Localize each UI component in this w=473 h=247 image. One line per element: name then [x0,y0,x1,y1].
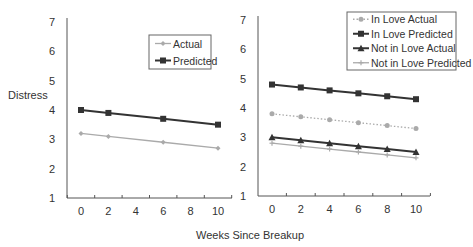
circle-marker [414,126,419,131]
square-marker [358,31,364,37]
series-in-love-actual [270,111,419,131]
x-tick-label: 8 [384,203,390,215]
legend-label: In Love Actual [371,13,437,25]
square-marker [355,90,361,96]
series-predicted [78,107,221,128]
legend-label: In Love Predicted [371,28,453,40]
x-tick-label: 8 [188,205,194,217]
x-tick-label: 0 [78,205,84,217]
y-tick-label: 7 [49,16,55,28]
square-marker [327,87,333,93]
x-tick-label: 10 [212,205,224,217]
circle-marker [270,111,275,116]
y-tick-label: 7 [240,14,246,26]
x-tick-label: 2 [298,203,304,215]
square-marker [78,107,84,113]
y-tick-label: 6 [240,43,246,55]
y-tick-label: 6 [49,45,55,57]
legend-label: Predicted [173,55,218,67]
x-tick-label: 4 [327,203,333,215]
y-tick-label: 2 [240,161,246,173]
square-marker [160,116,166,122]
y-tick-label: 4 [49,104,55,116]
x-tick-label: 10 [410,203,422,215]
square-marker [215,122,221,128]
circle-marker [359,17,364,22]
x-tick-label: 4 [133,205,139,217]
circle-marker [327,117,332,122]
y-tick-label: 1 [49,192,55,204]
legend-label: Not in Love Predicted [371,57,472,69]
square-marker [384,93,390,99]
diamond-marker [216,146,221,151]
circle-marker [298,114,303,119]
x-tick-label: 2 [105,205,111,217]
diamond-marker [79,131,84,136]
square-marker [413,96,419,102]
chart-1: 12345670246810ActualPredicted [49,16,232,217]
x-tick-label: 6 [160,205,166,217]
figure: 12345670246810ActualPredicted12345670246… [0,0,473,247]
diamond-marker [106,134,111,139]
chart-2: 12345670246810In Love ActualIn Love Pred… [240,12,472,215]
y-tick-label: 3 [49,133,55,145]
diamond-marker [161,140,166,145]
legend-label: Actual [173,38,202,50]
y-tick-label: 1 [240,190,246,202]
x-tick-label: 6 [355,203,361,215]
legend: In Love ActualIn Love PredictedNot in Lo… [347,12,472,70]
legend-label: Not in Love Actual [371,42,456,54]
x-axis-label: Weeks Since Breakup [196,229,304,241]
circle-marker [356,120,361,125]
circle-marker [385,123,390,128]
y-tick-label: 4 [240,102,246,114]
series-not-in-love-actual [269,134,420,155]
y-tick-label: 2 [49,163,55,175]
y-tick-label: 3 [240,131,246,143]
square-marker [160,58,166,64]
square-marker [269,82,275,88]
square-marker [298,84,304,90]
y-tick-label: 5 [240,73,246,85]
square-marker [105,110,111,116]
y-tick-label: 5 [49,75,55,87]
y-axis-label: Distress [8,89,48,101]
x-tick-label: 0 [269,203,275,215]
legend: ActualPredicted [149,35,218,69]
series-in-love-predicted [269,82,419,103]
series-actual [79,131,221,151]
